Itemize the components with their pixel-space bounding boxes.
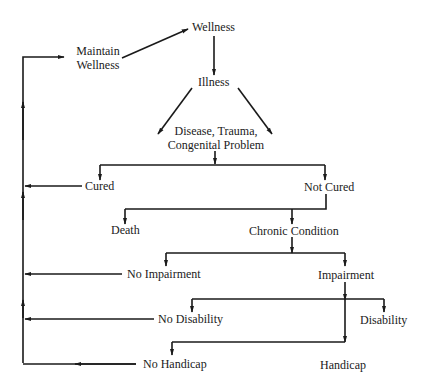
node-impairment: Impairment <box>318 268 374 282</box>
wellness-illness-flowchart: Maintain Wellness Wellness Illness Disea… <box>0 0 426 385</box>
node-no-handicap: No Handicap <box>143 357 207 371</box>
node-handicap: Handicap <box>320 358 366 372</box>
node-chronic-condition: Chronic Condition <box>249 224 339 238</box>
node-disease-line2: Congenital Problem <box>160 138 272 152</box>
node-death: Death <box>111 223 140 237</box>
node-disability: Disability <box>360 313 407 327</box>
node-maintain-wellness: Maintain Wellness <box>70 44 126 72</box>
flowchart-connectors <box>0 0 426 385</box>
node-wellness: Wellness <box>192 20 235 34</box>
node-not-cured: Not Cured <box>304 180 354 194</box>
feedback-trunk-line <box>23 57 64 363</box>
node-disease-line1: Disease, Trauma, <box>160 124 272 138</box>
node-disease-trauma-congenital: Disease, Trauma, Congenital Problem <box>160 124 272 152</box>
node-maintain-wellness-line1: Maintain <box>70 44 126 58</box>
node-cured: Cured <box>85 179 114 193</box>
node-illness: Illness <box>198 75 229 89</box>
node-maintain-wellness-line2: Wellness <box>70 58 126 72</box>
node-no-disability: No Disability <box>158 312 223 326</box>
node-no-impairment: No Impairment <box>127 267 201 281</box>
